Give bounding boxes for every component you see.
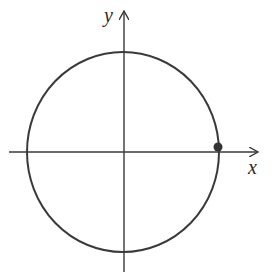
point-on-circle: [214, 143, 223, 152]
x-axis-label: x: [247, 156, 257, 178]
unit-circle-diagram: y x: [0, 0, 275, 277]
y-axis-label: y: [102, 4, 113, 27]
